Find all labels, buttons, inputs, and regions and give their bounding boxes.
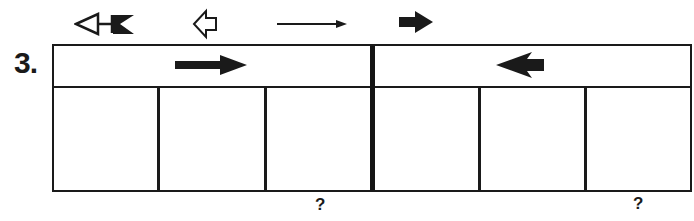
problem-number: 3.: [14, 46, 37, 80]
answer-cell-left-2[interactable]: [160, 88, 264, 190]
thin-right-arrow-icon: [276, 16, 348, 28]
answer-cell-left-3[interactable]: [267, 88, 370, 190]
left-arrow-with-flag-icon: [74, 10, 138, 38]
sequence-frame: [52, 44, 692, 192]
question-mark-left: ?: [315, 195, 325, 215]
answer-cell-right-3[interactable]: [587, 88, 690, 190]
left-arrow-icon: [494, 50, 556, 80]
right-arrow-icon: [174, 54, 248, 76]
answer-cell-right-2[interactable]: [481, 88, 585, 190]
open-left-arrow-icon: [192, 8, 218, 40]
bold-right-arrow-icon: [398, 10, 434, 34]
answer-cell-right-1[interactable]: [375, 88, 478, 190]
answer-cell-left-1[interactable]: [54, 88, 158, 190]
question-mark-right: ?: [633, 194, 643, 214]
